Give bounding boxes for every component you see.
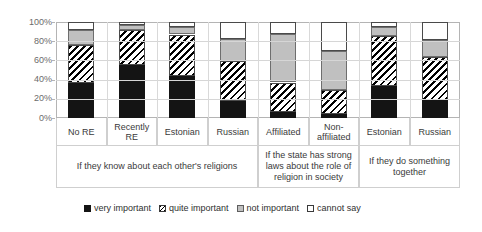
legend-label: not important bbox=[247, 203, 300, 213]
y-axis-tick-mark bbox=[52, 118, 55, 119]
bar-stack bbox=[169, 22, 195, 118]
bar-segment-very-important bbox=[169, 76, 195, 118]
bar-segment-very-important bbox=[119, 65, 145, 118]
group-label: If the state has strong laws about the r… bbox=[258, 146, 359, 188]
bar-segment-quite-important bbox=[422, 57, 448, 100]
legend-item: quite important bbox=[159, 203, 229, 213]
bar-segment-not-important bbox=[321, 51, 347, 90]
category-axis-labels: No RERecently REEstonianRussianAffiliate… bbox=[56, 118, 460, 146]
bar-stack bbox=[270, 22, 296, 118]
bar-stack bbox=[220, 22, 246, 118]
category-separator bbox=[107, 22, 108, 118]
y-axis-tick-label: 20% bbox=[2, 94, 52, 103]
bar-segment-not-important bbox=[371, 27, 397, 37]
bar-stack bbox=[371, 22, 397, 118]
bar-stack bbox=[119, 22, 145, 118]
y-axis-tick-label: 80% bbox=[2, 37, 52, 46]
category-separator bbox=[309, 22, 310, 118]
plot-area bbox=[56, 22, 460, 118]
bar-segment-quite-important bbox=[220, 61, 246, 100]
y-axis: 100%80%60%40%20%0% bbox=[0, 22, 52, 118]
category-separator bbox=[157, 22, 158, 118]
bar-segment-cannot-say bbox=[422, 22, 448, 40]
bar-segment-not-important bbox=[169, 27, 195, 35]
bar-stack bbox=[422, 22, 448, 118]
bar-segment-not-important bbox=[68, 30, 94, 45]
bar-segment-very-important bbox=[371, 86, 397, 118]
category-label: Recently RE bbox=[107, 118, 158, 146]
bar-segment-cannot-say bbox=[119, 22, 145, 25]
bar-segment-very-important bbox=[422, 100, 448, 118]
category-label: Non-affiliated bbox=[309, 118, 360, 146]
bar-segment-cannot-say bbox=[68, 22, 94, 30]
bar-segment-quite-important bbox=[270, 83, 296, 113]
category-label: Affiliated bbox=[258, 118, 309, 146]
category-separator bbox=[410, 22, 411, 118]
bar-stack bbox=[68, 22, 94, 118]
bar-segment-quite-important bbox=[68, 45, 94, 83]
legend-swatch-icon bbox=[84, 205, 91, 212]
y-axis-tick-label: 0% bbox=[2, 114, 52, 123]
y-axis-tick-mark bbox=[52, 99, 55, 100]
bar-segment-not-important bbox=[220, 39, 246, 61]
bar-segment-not-important bbox=[422, 40, 448, 56]
category-label: Estonian bbox=[359, 118, 410, 146]
bar-segment-quite-important bbox=[321, 90, 347, 114]
bar-segment-very-important bbox=[220, 101, 246, 118]
legend-item: very important bbox=[84, 203, 151, 213]
bar-segment-very-important bbox=[68, 83, 94, 118]
category-separator bbox=[359, 22, 360, 118]
legend-item: cannot say bbox=[307, 203, 361, 213]
legend-swatch-icon bbox=[237, 205, 244, 212]
category-label: Estonian bbox=[157, 118, 208, 146]
bar-segment-cannot-say bbox=[169, 22, 195, 27]
legend-swatch-icon bbox=[307, 205, 314, 212]
group-axis-labels: If they know about each other's religion… bbox=[56, 146, 460, 188]
y-axis-tick-label: 100% bbox=[2, 18, 52, 27]
category-separator bbox=[258, 22, 259, 118]
y-axis-tick-label: 60% bbox=[2, 56, 52, 65]
y-axis-tick-mark bbox=[52, 41, 55, 42]
legend-label: very important bbox=[94, 203, 151, 213]
category-label: Russian bbox=[208, 118, 259, 146]
legend-label: quite important bbox=[169, 203, 229, 213]
group-label: If they do something together bbox=[359, 146, 460, 188]
group-label: If they know about each other's religion… bbox=[56, 146, 258, 188]
y-axis-tick-mark bbox=[52, 60, 55, 61]
stacked-bar-chart: 100%80%60%40%20%0% No RERecently REEston… bbox=[0, 0, 482, 232]
bar-segment-cannot-say bbox=[321, 22, 347, 51]
y-axis-tick-label: 40% bbox=[2, 75, 52, 84]
bar-stack bbox=[321, 22, 347, 118]
bar-segment-cannot-say bbox=[270, 22, 296, 34]
y-axis-tick-mark bbox=[52, 80, 55, 81]
y-axis-tick-mark bbox=[52, 22, 55, 23]
bar-segment-cannot-say bbox=[371, 22, 397, 27]
bar-segment-not-important bbox=[119, 25, 145, 30]
category-separator bbox=[208, 22, 209, 118]
legend-item: not important bbox=[237, 203, 300, 213]
legend-label: cannot say bbox=[317, 203, 361, 213]
legend-swatch-icon bbox=[159, 205, 166, 212]
chart-legend: very importantquite importantnot importa… bbox=[84, 201, 365, 215]
category-label: Russian bbox=[410, 118, 461, 146]
bar-segment-cannot-say bbox=[220, 22, 246, 39]
category-label: No RE bbox=[56, 118, 107, 146]
